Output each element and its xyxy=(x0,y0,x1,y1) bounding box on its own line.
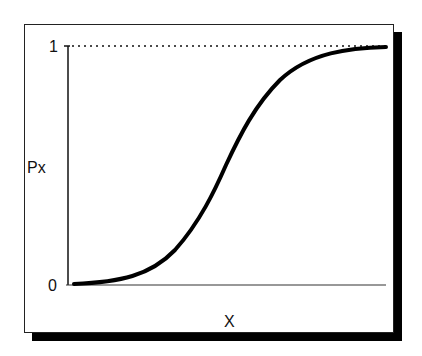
y-tick-label-top: 1 xyxy=(49,39,58,55)
sigmoid-curve xyxy=(74,47,386,284)
x-axis-label: X xyxy=(224,314,235,330)
y-axis-label: Px xyxy=(27,160,46,176)
plot-area xyxy=(0,0,422,356)
y-tick-label-bottom: 0 xyxy=(48,278,57,294)
